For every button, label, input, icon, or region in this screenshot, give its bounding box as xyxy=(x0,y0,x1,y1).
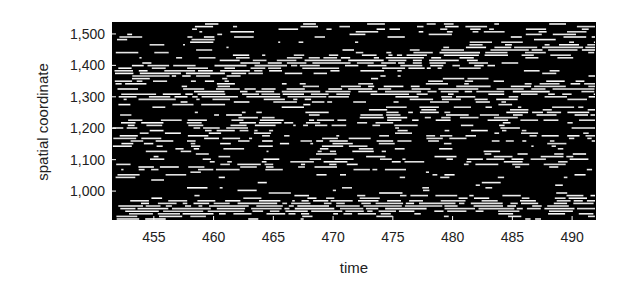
y-tick-label: 1,500 xyxy=(70,26,105,42)
x-tick-label: 490 xyxy=(560,229,584,245)
y-tick-label: 1,000 xyxy=(70,183,105,199)
x-tick-label: 465 xyxy=(262,229,286,245)
y-axis-title: spatial coordinate xyxy=(34,63,51,181)
x-axis-title: time xyxy=(340,259,368,276)
raster-chart: 455460465470475480485490 1,0001,1001,200… xyxy=(0,0,623,288)
y-tick-label: 1,400 xyxy=(70,57,105,73)
y-tick-label: 1,300 xyxy=(70,89,105,105)
plot-area xyxy=(112,22,596,220)
x-tick-label: 480 xyxy=(441,229,465,245)
x-axis: 455460465470475480485490 xyxy=(142,216,584,245)
x-tick-label: 475 xyxy=(381,229,405,245)
y-tick-label: 1,200 xyxy=(70,120,105,136)
y-tick-label: 1,100 xyxy=(70,152,105,168)
x-tick-label: 485 xyxy=(501,229,525,245)
x-tick-label: 455 xyxy=(142,229,166,245)
y-axis: 1,0001,1001,2001,3001,4001,500 xyxy=(70,26,116,199)
x-tick-label: 460 xyxy=(202,229,226,245)
x-tick-label: 470 xyxy=(321,229,345,245)
